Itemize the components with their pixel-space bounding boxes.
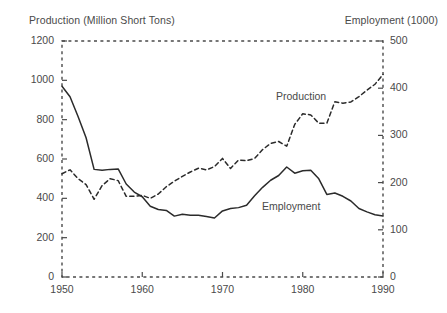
right-tick-label-400: 400 bbox=[390, 81, 430, 93]
left-tick-label-600: 600 bbox=[20, 152, 54, 164]
left-tick-label-1000: 1000 bbox=[20, 73, 54, 85]
x-tick-label-1970: 1970 bbox=[201, 283, 245, 295]
production-series-label: Production bbox=[276, 90, 326, 102]
chart-figure: Production (Million Short Tons) Employme… bbox=[0, 0, 447, 313]
plot-canvas bbox=[0, 0, 447, 313]
employment-line bbox=[62, 86, 383, 218]
left-axis-title: Production (Million Short Tons) bbox=[29, 14, 175, 26]
x-tick-label-1990: 1990 bbox=[361, 283, 405, 295]
right-tick-label-500: 500 bbox=[390, 34, 430, 46]
x-tick-label-1950: 1950 bbox=[40, 283, 84, 295]
right-tick-label-300: 300 bbox=[390, 128, 430, 140]
x-tick-marks bbox=[62, 272, 383, 277]
employment-series-label: Employment bbox=[262, 200, 320, 212]
right-tick-label-100: 100 bbox=[390, 223, 430, 235]
left-tick-label-1200: 1200 bbox=[20, 34, 54, 46]
left-tick-label-800: 800 bbox=[20, 113, 54, 125]
left-tick-marks bbox=[62, 41, 67, 277]
production-line bbox=[62, 74, 383, 199]
left-tick-label-400: 400 bbox=[20, 191, 54, 203]
x-tick-label-1980: 1980 bbox=[281, 283, 325, 295]
right-axis-title: Employment (1000) bbox=[345, 14, 438, 26]
right-tick-label-200: 200 bbox=[390, 176, 430, 188]
left-tick-label-0: 0 bbox=[20, 270, 54, 282]
left-tick-label-200: 200 bbox=[20, 231, 54, 243]
right-tick-label-0: 0 bbox=[390, 270, 430, 282]
x-tick-label-1960: 1960 bbox=[120, 283, 164, 295]
